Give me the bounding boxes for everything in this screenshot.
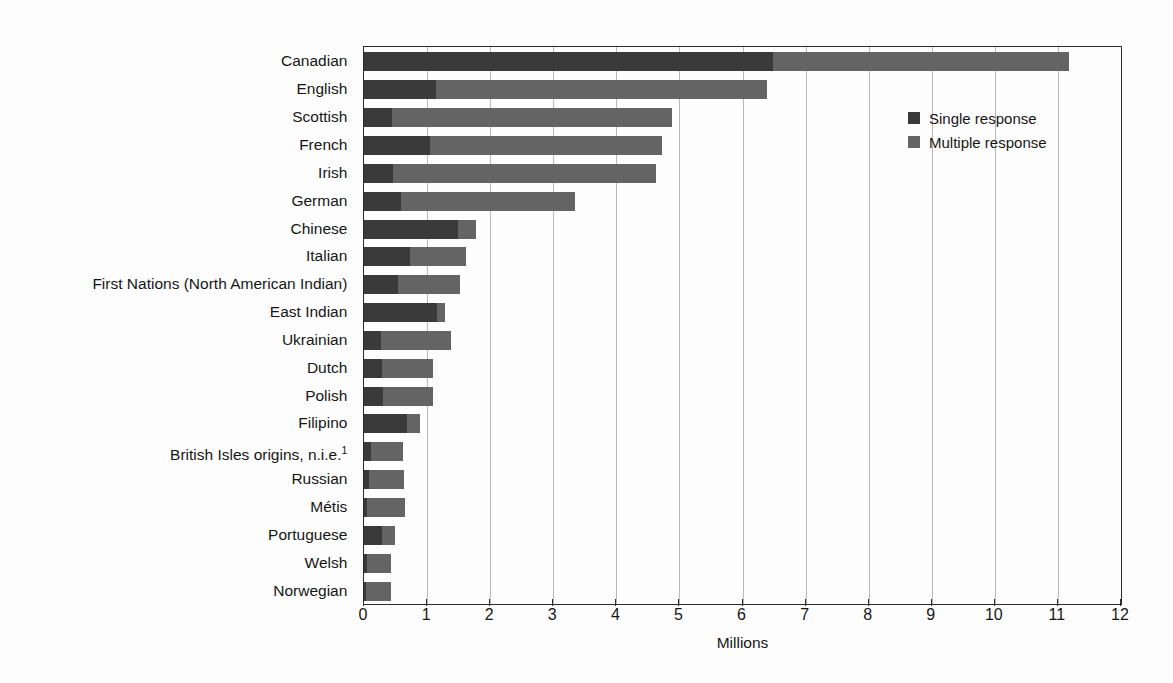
- category-label: French: [0, 135, 356, 154]
- x-tick-label: 12: [1100, 606, 1140, 624]
- category-label: Chinese: [0, 219, 356, 238]
- x-axis-title: Millions: [363, 634, 1122, 652]
- ethnic-origin-bar-chart: Canadian English Scottish French Irish G…: [0, 0, 1173, 683]
- bar-segment-multiple-response: [366, 582, 391, 601]
- x-tick-mark: [552, 599, 553, 606]
- x-tick-label: 4: [595, 606, 635, 624]
- bar-segment-single-response: [364, 52, 773, 71]
- category-label: Welsh: [0, 553, 356, 572]
- bar-row: [364, 442, 1121, 461]
- bar-row: [364, 220, 1121, 239]
- category-label: Métis: [0, 497, 356, 516]
- category-label: Italian: [0, 246, 356, 265]
- bar-segment-single-response: [364, 526, 382, 545]
- category-label: Canadian: [0, 51, 356, 70]
- bar-segment-multiple-response: [401, 192, 576, 211]
- x-tick-label: 6: [722, 606, 762, 624]
- bar-segment-multiple-response: [371, 442, 403, 461]
- category-label: Polish: [0, 386, 356, 405]
- bar-segment-multiple-response: [773, 52, 1069, 71]
- x-tick-label: 10: [974, 606, 1014, 624]
- bar-segment-multiple-response: [382, 526, 395, 545]
- chart-legend: Single response Multiple response: [908, 106, 1047, 154]
- category-label: Ukrainian: [0, 330, 356, 349]
- bar-row: [364, 164, 1121, 183]
- bar-segment-multiple-response: [392, 108, 673, 127]
- bar-segment-multiple-response: [382, 359, 433, 378]
- bar-row: [364, 498, 1121, 517]
- legend-item-single: Single response: [908, 106, 1047, 130]
- category-axis-labels: Canadian English Scottish French Irish G…: [0, 46, 356, 605]
- category-label: British Isles origins, n.i.e.1: [0, 441, 356, 464]
- bar-row: [364, 359, 1121, 378]
- legend-label-multiple: Multiple response: [929, 134, 1047, 151]
- x-tick-label: 9: [911, 606, 951, 624]
- x-tick-label: 1: [406, 606, 446, 624]
- category-label: Filipino: [0, 413, 356, 432]
- bar-row: [364, 80, 1121, 99]
- legend-swatch-multiple-icon: [908, 136, 920, 148]
- x-tick-label: 5: [658, 606, 698, 624]
- bar-row: [364, 554, 1121, 573]
- bar-row: [364, 582, 1121, 601]
- bar-segment-multiple-response: [367, 554, 392, 573]
- x-tick-mark: [363, 599, 364, 606]
- legend-label-single: Single response: [929, 110, 1037, 127]
- category-label: First Nations (North American Indian): [0, 274, 356, 293]
- x-tick-mark: [805, 599, 806, 606]
- x-tick-mark: [868, 599, 869, 606]
- bar-row: [364, 331, 1121, 350]
- bar-segment-single-response: [364, 442, 371, 461]
- x-tick-mark: [678, 599, 679, 606]
- bar-segment-multiple-response: [437, 303, 445, 322]
- bar-segment-multiple-response: [383, 387, 433, 406]
- legend-swatch-single-icon: [908, 112, 920, 124]
- category-label: German: [0, 191, 356, 210]
- value-axis-ticks: 0123456789101112: [0, 606, 1173, 632]
- bar-segment-single-response: [364, 275, 398, 294]
- x-tick-label: 7: [785, 606, 825, 624]
- bar-segment-multiple-response: [410, 247, 466, 266]
- bar-segment-multiple-response: [398, 275, 460, 294]
- bar-segment-single-response: [364, 387, 383, 406]
- legend-item-multiple: Multiple response: [908, 130, 1047, 154]
- x-tick-mark: [1057, 599, 1058, 606]
- x-tick-mark: [1120, 599, 1121, 606]
- x-tick-mark: [615, 599, 616, 606]
- bar-segment-single-response: [364, 414, 407, 433]
- category-label: Russian: [0, 469, 356, 488]
- bar-segment-single-response: [364, 303, 437, 322]
- bar-segment-multiple-response: [393, 164, 656, 183]
- bar-row: [364, 275, 1121, 294]
- bar-row: [364, 526, 1121, 545]
- bar-segment-single-response: [364, 247, 410, 266]
- bar-row: [364, 247, 1121, 266]
- bar-segment-multiple-response: [430, 136, 663, 155]
- bar-segment-single-response: [364, 331, 381, 350]
- category-label: English: [0, 79, 356, 98]
- bar-row: [364, 414, 1121, 433]
- bar-segment-single-response: [364, 359, 382, 378]
- x-tick-label: 0: [343, 606, 383, 624]
- category-label: Norwegian: [0, 581, 356, 600]
- bar-segment-multiple-response: [458, 220, 476, 239]
- bar-row: [364, 52, 1121, 71]
- x-tick-label: 3: [532, 606, 572, 624]
- bar-segment-multiple-response: [436, 80, 767, 99]
- category-label: Dutch: [0, 358, 356, 377]
- bar-segment-single-response: [364, 108, 392, 127]
- x-tick-mark: [489, 599, 490, 606]
- bar-row: [364, 192, 1121, 211]
- x-tick-mark: [994, 599, 995, 606]
- bar-segment-single-response: [364, 192, 401, 211]
- bar-segment-multiple-response: [381, 331, 451, 350]
- category-label: Portuguese: [0, 525, 356, 544]
- bar-segment-multiple-response: [369, 470, 404, 489]
- bar-row: [364, 387, 1121, 406]
- bar-segment-multiple-response: [407, 414, 420, 433]
- x-tick-label: 8: [848, 606, 888, 624]
- x-tick-label: 11: [1037, 606, 1077, 624]
- bar-segment-single-response: [364, 164, 393, 183]
- bar-row: [364, 470, 1121, 489]
- category-label: East Indian: [0, 302, 356, 321]
